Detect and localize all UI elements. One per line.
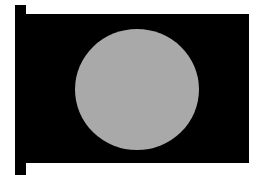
flagpole — [15, 5, 26, 175]
gray-circle-emblem — [75, 29, 199, 150]
